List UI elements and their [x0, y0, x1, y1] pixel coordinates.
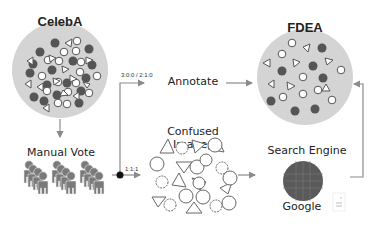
globe-icon: [283, 161, 323, 201]
document-icon: [333, 193, 345, 211]
confused-shapes: [0, 0, 384, 228]
